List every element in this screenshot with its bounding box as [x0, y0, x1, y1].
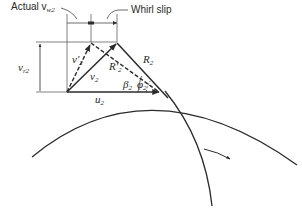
rotation-arrow: [204, 149, 230, 159]
leader-actual-vw2: [61, 8, 77, 19]
label-R2-prime: R'2: [108, 60, 122, 74]
impeller-blade-curve: [165, 91, 212, 206]
label-v2-prime: v'2: [72, 53, 83, 67]
leader-whirl-slip: [107, 10, 128, 19]
impeller-rim-arc: [32, 110, 297, 165]
label-actual-vw2: Actual vw2: [11, 1, 55, 14]
label-beta2: β2: [122, 78, 132, 92]
label-phi2: φ2: [137, 78, 147, 92]
label-v2: v2: [90, 70, 99, 84]
label-R2: R2: [142, 53, 154, 67]
label-whirl-slip: Whirl slip: [131, 4, 172, 15]
dim-tick-right: [113, 21, 117, 25]
dim-tick-mid: [88, 22, 94, 25]
velocity-triangle-diagram: Actual vw2 Whirl slip vr2 v'2 v2 R'2 R2 …: [0, 0, 302, 214]
label-vr2: vr2: [18, 61, 30, 75]
label-u2: u2: [95, 93, 105, 107]
